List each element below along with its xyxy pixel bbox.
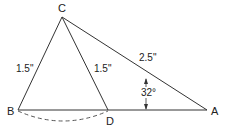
measure-cb: 1.5" [16,63,34,74]
arrowhead-down-icon [144,104,148,110]
label-b: B [7,105,14,117]
label-a: A [211,105,219,117]
measure-cd: 1.5" [94,63,112,74]
measure-ca: 2.5" [139,52,157,63]
triangle-diagram: C B D A 1.5" 1.5" 2.5" 32° [0,0,227,134]
arrowhead-up-icon [144,78,148,84]
dashed-arc-bd [18,111,108,121]
label-c: C [58,2,66,14]
label-d: D [106,115,114,127]
measure-angle-a: 32° [141,87,156,98]
segment-ca [62,17,207,110]
